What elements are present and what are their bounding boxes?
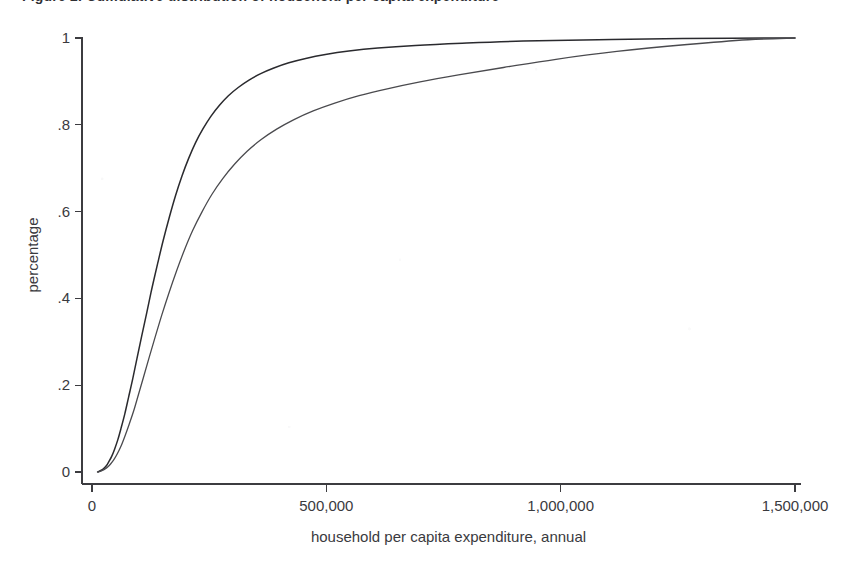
y-tick-label: .6 bbox=[57, 203, 70, 220]
y-tick-label: 1 bbox=[62, 29, 70, 46]
y-axis-title: percentage bbox=[24, 217, 41, 292]
y-tick-label: .4 bbox=[57, 289, 70, 306]
y-tick-label: 0 bbox=[62, 463, 70, 480]
y-tick-label: .2 bbox=[57, 376, 70, 393]
x-axis-title: household per capita expenditure, annual bbox=[311, 528, 586, 545]
x-tick-label: 1,000,000 bbox=[527, 497, 594, 514]
cdf-curve-curve-1 bbox=[98, 38, 795, 472]
x-tick-label: 0 bbox=[88, 497, 96, 514]
x-tick-label: 500,000 bbox=[299, 497, 353, 514]
y-tick-label: .8 bbox=[57, 116, 70, 133]
cdf-curve-curve-2 bbox=[98, 38, 795, 472]
cdf-chart: 0.2.4.6.810500,0001,000,0001,500,000hous… bbox=[0, 0, 851, 577]
x-tick-label: 1,500,000 bbox=[762, 497, 829, 514]
